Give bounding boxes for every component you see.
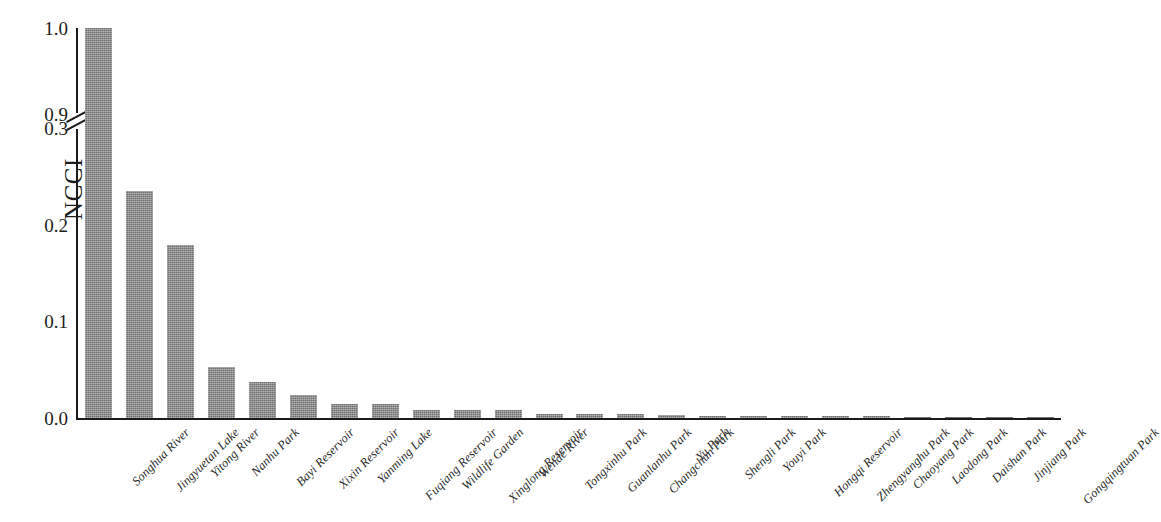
bar <box>576 414 603 418</box>
bar <box>85 28 112 418</box>
bar <box>986 417 1013 419</box>
bar <box>536 414 563 418</box>
plot-area <box>76 28 1061 420</box>
bar <box>699 416 726 418</box>
y-tick-label: 0.2 <box>22 216 68 235</box>
x-axis-tick-labels: Songhua RiverJingyuetan LakeYitong River… <box>76 424 1081 522</box>
y-tick-label: 1.0 <box>22 19 68 38</box>
bar <box>658 415 685 418</box>
bar <box>904 417 931 419</box>
bar <box>1027 417 1054 419</box>
bar <box>617 414 644 418</box>
bar <box>413 410 440 418</box>
bar <box>781 416 808 418</box>
bar <box>249 382 276 418</box>
bar <box>945 417 972 419</box>
bar <box>331 404 358 419</box>
bar <box>126 191 153 418</box>
bar-series <box>78 28 1061 418</box>
bar <box>167 245 194 418</box>
bar <box>740 416 767 418</box>
bar <box>495 410 522 418</box>
bar <box>372 404 399 418</box>
bar <box>454 410 481 418</box>
x-tick-label: Wende River <box>537 426 592 481</box>
y-tick-label: 0.1 <box>22 312 68 331</box>
y-tick-label: 0.0 <box>22 409 68 428</box>
bar <box>208 367 235 418</box>
bar <box>822 416 849 418</box>
y-axis-tick-labels: 1.00.90.30.20.10.0 <box>22 0 68 522</box>
y-tick-label: 0.3 <box>22 119 68 138</box>
bar <box>290 395 317 418</box>
x-axis-line <box>76 418 1061 420</box>
bar <box>863 416 890 418</box>
x-tick-label: Gongqingtuan Park <box>1080 426 1161 507</box>
